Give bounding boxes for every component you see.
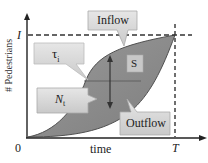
x-axis-label: time	[90, 143, 111, 155]
inflow-label: Inflow	[97, 14, 129, 26]
tau-label: τi	[52, 47, 59, 64]
n-subscript: t	[63, 99, 65, 108]
tau-subscript: i	[57, 55, 59, 64]
n-callout	[37, 88, 97, 113]
y-max-label: I	[17, 29, 21, 41]
x-axis-arrow-icon	[199, 135, 207, 141]
origin-label: 0	[15, 142, 21, 154]
tau-callout	[34, 43, 88, 80]
cumulative-flow-diagram: Inflow τi S Nt Outflow I T 0 time # Pede…	[0, 0, 208, 163]
y-axis-arrow-icon	[24, 13, 30, 20]
outflow-label: Outflow	[126, 117, 166, 129]
n-symbol: N	[55, 92, 63, 106]
y-axis-label: # Pedestrians	[3, 39, 14, 92]
s-label: S	[131, 58, 137, 69]
x-max-label: T	[172, 142, 179, 154]
n-label: Nt	[55, 93, 65, 108]
